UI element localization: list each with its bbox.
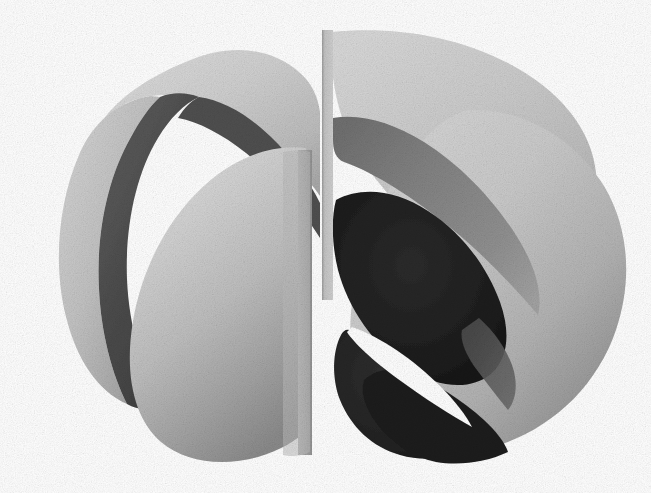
front-left-lobe-edge-blend xyxy=(283,151,310,457)
cut-face-right xyxy=(322,30,333,300)
figure-root: Four-lobed cut surface render xyxy=(0,0,651,493)
surface-render-canvas xyxy=(0,0,651,493)
